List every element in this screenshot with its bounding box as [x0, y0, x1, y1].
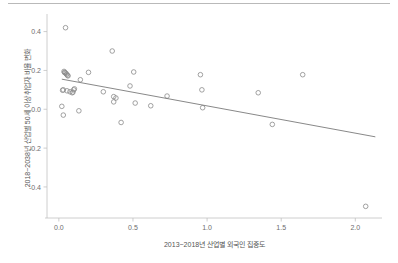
data-point: [119, 120, 124, 125]
x-tick-label: 1.0: [202, 224, 212, 231]
x-tick-label: 0.0: [54, 224, 64, 231]
data-point: [110, 49, 115, 54]
y-tick-label: 0.2: [31, 67, 41, 74]
data-point: [131, 70, 136, 75]
data-point: [61, 113, 66, 118]
x-tick-label: 2.0: [350, 224, 360, 231]
data-point: [165, 94, 170, 99]
y-tick-label: 0.4: [31, 28, 41, 35]
data-point: [60, 104, 65, 109]
data-point: [256, 90, 261, 95]
data-point: [133, 101, 138, 106]
regression-trendline: [62, 79, 376, 137]
x-axis-tickmarks: [59, 218, 355, 222]
data-point: [63, 25, 68, 30]
scatter-plot-figure: 0.00.51.01.52.0 0.40.20.0-0.2-0.4 2013~2…: [0, 0, 398, 263]
x-tick-label: 1.5: [276, 224, 286, 231]
data-point: [200, 105, 205, 110]
data-point: [101, 89, 106, 94]
data-point: [198, 72, 203, 77]
y-tick-label: 0.0: [31, 106, 41, 113]
x-axis-title: 2013~2018년 산업별 외국인 집중도: [164, 240, 266, 249]
data-point: [128, 84, 133, 89]
data-point: [78, 77, 83, 82]
data-point: [363, 204, 368, 209]
data-point: [77, 109, 82, 114]
data-point: [148, 103, 153, 108]
data-point: [300, 72, 305, 77]
x-tick-label: 0.5: [128, 224, 138, 231]
y-axis-tickmarks: [44, 32, 48, 187]
data-point: [200, 88, 205, 93]
y-axis-title: 2018~2038년 산업별 50세 이상 취업자 비율 변화: [23, 48, 32, 188]
chart-canvas: 0.00.51.01.52.0 0.40.20.0-0.2-0.4 2013~2…: [0, 0, 398, 263]
x-axis-tick-labels: 0.00.51.01.52.0: [54, 224, 360, 231]
data-point: [86, 70, 91, 75]
data-point: [270, 122, 275, 127]
data-point-group: [60, 25, 368, 208]
